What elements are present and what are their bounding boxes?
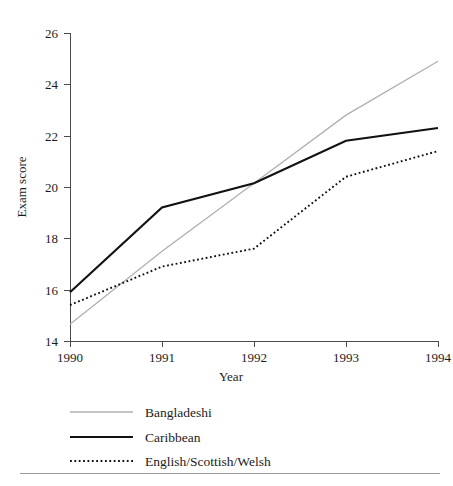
x-tick-label: 1993 [333,350,359,365]
legend-item-label: Caribbean [145,430,201,445]
y-tick-label: 14 [45,334,59,349]
y-tick-label: 26 [45,26,59,41]
legend-item-label: Bangladeshi [145,405,212,420]
x-tick-label: 1990 [57,350,83,365]
y-tick-label: 24 [45,77,59,92]
x-tick-label: 1992 [241,350,267,365]
y-axis-title: Exam score [14,156,29,217]
legend-item-label: English/Scottish/Welsh [145,454,271,469]
x-tick-label: 1994 [425,350,452,365]
exam-score-line-chart: 14 16 18 20 22 24 26 1990 1991 1992 1993… [0,0,453,486]
chart-background [0,0,453,486]
x-tick-label: 1991 [149,350,175,365]
y-tick-label: 18 [45,231,58,246]
y-tick-label: 20 [45,180,58,195]
y-tick-label: 16 [45,283,59,298]
y-tick-label: 22 [45,129,58,144]
x-axis-title: Year [219,369,244,384]
